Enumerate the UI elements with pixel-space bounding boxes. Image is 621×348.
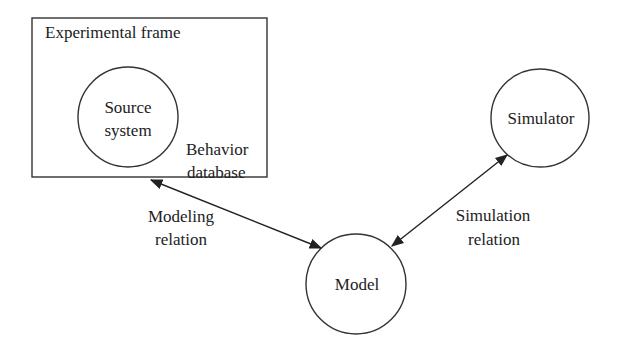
modeling-relation-label-line1: Modeling bbox=[148, 207, 215, 226]
modeling-relation-label-line2: relation bbox=[155, 230, 207, 249]
diagram-canvas: Experimental frame Behavior database Sou… bbox=[0, 0, 621, 348]
source-system-label-line1: Source bbox=[104, 98, 151, 117]
behavior-database-label-line1: Behavior bbox=[186, 140, 249, 159]
simulation-relation-edge: Simulation relation bbox=[392, 155, 531, 249]
source-system-label-line2: system bbox=[104, 121, 151, 140]
simulator-node: Simulator bbox=[491, 69, 589, 167]
model-node: Model bbox=[306, 234, 406, 334]
simulator-label: Simulator bbox=[507, 109, 574, 128]
source-system-circle bbox=[78, 67, 178, 167]
model-label: Model bbox=[335, 275, 380, 294]
simulation-relation-label-line2: relation bbox=[468, 230, 520, 249]
source-system-node: Source system bbox=[78, 67, 178, 167]
simulation-relation-label-line1: Simulation bbox=[456, 206, 531, 225]
modeling-relation-edge: Modeling relation bbox=[148, 180, 321, 249]
behavior-database-label-line2: database bbox=[187, 163, 246, 182]
experimental-frame-label: Experimental frame bbox=[45, 23, 180, 42]
